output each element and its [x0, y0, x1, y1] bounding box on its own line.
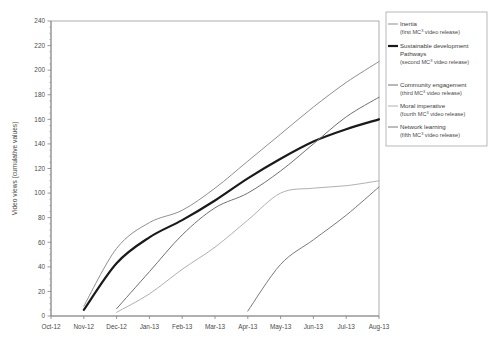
series-line-1 [84, 119, 379, 310]
x-tick-label: Aug-13 [369, 323, 390, 331]
chart-container: 020406080100120140160180200220240 Oct-12… [0, 0, 492, 350]
x-tick-label: May-13 [270, 323, 292, 331]
x-tick-label: Nov-12 [73, 323, 94, 330]
legend-label-1: Sustainable development [400, 42, 469, 49]
series-line-0 [84, 62, 379, 307]
y-axis: 020406080100120140160180200220240 [34, 17, 51, 319]
series-line-3 [117, 181, 379, 313]
x-tick-label: Mar-13 [205, 323, 226, 330]
y-tick-label: 180 [34, 91, 45, 98]
chart-legend: Inertia(first MC3 video release)Sustaina… [386, 12, 487, 146]
legend-sublabel-4: (fifth MC3 video release) [400, 131, 460, 138]
x-axis: Oct-12Nov-12Dec-12Jan-13Feb-13Mar-13Apr-… [41, 316, 389, 331]
x-tick-label: Jul-13 [337, 323, 355, 330]
legend-label2-1: Pathways [400, 50, 426, 57]
y-tick-label: 240 [34, 17, 45, 24]
y-tick-label: 40 [38, 263, 46, 270]
y-tick-label: 20 [38, 288, 46, 295]
legend-label-4: Network learning [400, 123, 446, 130]
legend-sublabel-0: (first MC3 video release) [400, 28, 460, 35]
plot-frame [51, 21, 379, 316]
legend-sublabel-2: (third MC3 video release) [400, 89, 462, 96]
x-tick-label: Feb-13 [172, 323, 193, 330]
legend-sublabel-1: (second MC3 video release) [400, 58, 469, 65]
series-line-4 [248, 187, 379, 311]
x-tick-label: Jun-13 [304, 323, 324, 330]
x-tick-label: Jan-13 [140, 323, 160, 330]
y-tick-label: 160 [34, 116, 45, 123]
legend-sublabel-3: (fourth MC3 video release) [400, 110, 465, 117]
series-lines [84, 62, 379, 313]
y-tick-label: 220 [34, 42, 45, 49]
video-views-line-chart: 020406080100120140160180200220240 Oct-12… [0, 0, 492, 350]
y-tick-label: 120 [34, 165, 45, 172]
y-tick-label: 140 [34, 140, 45, 147]
legend-label-3: Moral imperative [400, 102, 446, 109]
series-line-2 [117, 97, 379, 308]
y-tick-label: 60 [38, 239, 46, 246]
x-tick-label: Apr-13 [238, 323, 258, 331]
y-tick-label: 80 [38, 214, 46, 221]
y-axis-title-text: Video views (cumulative values) [11, 122, 19, 216]
x-tick-label: Dec-12 [106, 323, 127, 330]
y-tick-label: 0 [41, 312, 45, 319]
y-tick-label: 100 [34, 189, 45, 196]
legend-label-0: Inertia [400, 20, 418, 27]
legend-label-2: Community engagement [400, 81, 467, 88]
x-tick-label: Oct-12 [41, 323, 61, 330]
y-tick-label: 200 [34, 66, 45, 73]
y-axis-title: Video views (cumulative values) [11, 122, 19, 216]
